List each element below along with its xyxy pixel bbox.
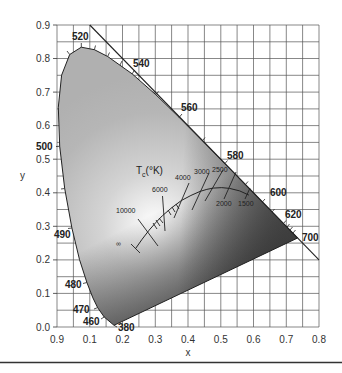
cct-label-3000: 3000 bbox=[194, 168, 210, 175]
x-tick-6: 0.6 bbox=[247, 334, 261, 345]
x-axis: 0.9 0.1 0.2 0.3 0.4 0.5 0.6 0.7 0.8 x bbox=[50, 334, 326, 358]
y-tick-5: 0.5 bbox=[36, 154, 50, 165]
wl-label-700: 700 bbox=[302, 232, 319, 243]
y-axis: 0.0 0.1 0.2 0.3 0.4 0.5 0.6 0.7 0.8 0.9 … bbox=[20, 20, 57, 333]
spectral-locus-fill bbox=[50, 40, 310, 330]
wl-label-500: 500 bbox=[36, 141, 53, 152]
cct-label-10000: 10000 bbox=[116, 207, 136, 214]
wl-label-480: 480 bbox=[65, 279, 82, 290]
y-tick-7: 0.7 bbox=[36, 87, 50, 98]
x-tick-3: 0.3 bbox=[148, 334, 162, 345]
wl-label-490: 490 bbox=[54, 229, 71, 240]
wl-label-560: 560 bbox=[181, 102, 198, 113]
wl-label-470: 470 bbox=[73, 304, 90, 315]
y-tick-4: 0.4 bbox=[36, 187, 50, 198]
x-tick-7: 0.7 bbox=[279, 334, 293, 345]
y-tick-3: 0.3 bbox=[36, 221, 50, 232]
cct-label-infinity: ∞ bbox=[116, 240, 121, 247]
cie-chromaticity-chart: Tc(°K) ∞ 10000 6000 4000 3000 2500 2000 … bbox=[0, 0, 342, 373]
y-tick-6: 0.6 bbox=[36, 120, 50, 131]
wl-label-580: 580 bbox=[227, 150, 244, 161]
cct-label-4000: 4000 bbox=[175, 174, 191, 181]
cct-label-6000: 6000 bbox=[152, 186, 168, 193]
y-tick-9: 0.9 bbox=[36, 20, 50, 31]
wl-label-520: 520 bbox=[72, 31, 89, 42]
wl-label-600: 600 bbox=[270, 187, 287, 198]
x-tick-0: 0.9 bbox=[50, 334, 64, 345]
wl-label-460: 460 bbox=[83, 316, 100, 327]
cct-label-2000: 2000 bbox=[216, 200, 232, 207]
y-tick-0: 0.0 bbox=[36, 322, 50, 333]
y-tick-1: 0.1 bbox=[36, 288, 50, 299]
x-axis-title: x bbox=[186, 347, 191, 358]
x-tick-1: 0.1 bbox=[83, 334, 97, 345]
x-tick-2: 0.2 bbox=[116, 334, 130, 345]
x-tick-8: 0.8 bbox=[312, 334, 326, 345]
cct-label-2500: 2500 bbox=[212, 166, 228, 173]
y-axis-title: y bbox=[20, 170, 25, 181]
y-tick-2: 0.2 bbox=[36, 254, 50, 265]
cct-label-1500: 1500 bbox=[238, 200, 254, 207]
wl-label-620: 620 bbox=[285, 209, 302, 220]
wl-label-380: 380 bbox=[118, 322, 135, 333]
y-tick-8: 0.8 bbox=[36, 53, 50, 64]
x-tick-5: 0.5 bbox=[214, 334, 228, 345]
wl-label-540: 540 bbox=[133, 58, 150, 69]
x-tick-4: 0.4 bbox=[181, 334, 195, 345]
